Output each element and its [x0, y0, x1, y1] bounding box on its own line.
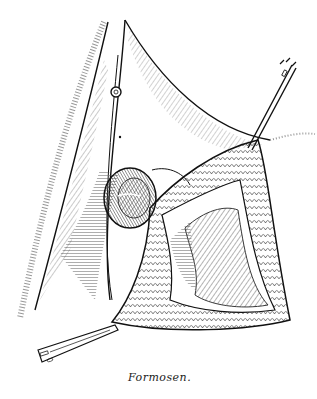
artist-signature: Formosen.	[128, 371, 191, 384]
forceps	[248, 58, 315, 150]
surgical-illustration	[0, 0, 317, 399]
scalpel	[38, 325, 118, 362]
